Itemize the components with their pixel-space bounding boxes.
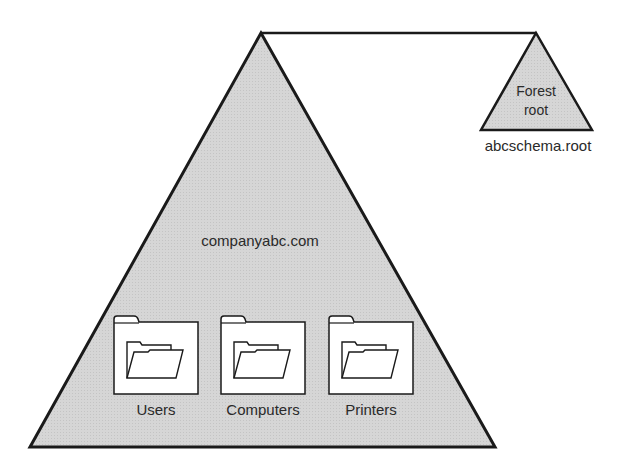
users-folder-icon [114,316,198,394]
forest-root-name-label: abcschema.root [468,137,608,154]
folder-label-printers: Printers [328,401,414,418]
folder-label-computers: Computers [212,401,314,418]
forest-root-label-line1: Forest [506,82,566,100]
folder-label-users: Users [113,401,199,418]
printers-folder-icon [329,316,413,394]
forest-root-label-line2: root [506,101,566,119]
domain-name-label: companyabc.com [190,232,330,249]
computers-folder-icon [221,316,305,394]
